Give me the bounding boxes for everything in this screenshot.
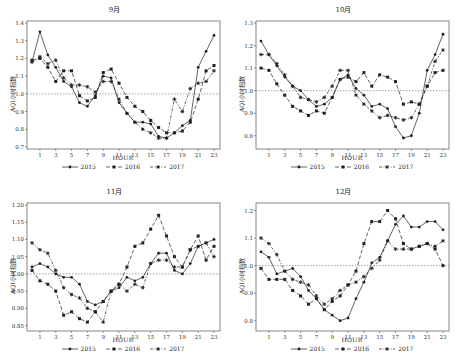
legend-item-2016: 2016 <box>335 163 369 170</box>
star-marker-icon <box>378 116 382 120</box>
dot-marker-icon <box>86 300 89 303</box>
star-marker-icon <box>394 247 398 251</box>
series-2017 <box>259 236 445 306</box>
legend-item-2017: 2017 <box>150 345 184 352</box>
square-marker-icon <box>378 73 381 76</box>
star-marker-icon <box>402 118 406 122</box>
legend: 201520162017 <box>229 163 458 170</box>
x-axis-label: HOUR <box>229 336 458 343</box>
star-marker-icon <box>70 83 74 87</box>
square-marker-icon <box>347 76 350 79</box>
square-marker-icon <box>112 165 115 168</box>
star-marker-icon <box>346 69 350 73</box>
star-marker-icon <box>410 247 414 251</box>
square-marker-icon <box>362 242 365 245</box>
dot-marker-icon <box>70 276 73 279</box>
dot-marker-icon <box>378 103 381 106</box>
square-marker-icon <box>275 82 278 85</box>
y-tick-label: 0.85 <box>12 323 25 329</box>
dot-marker-icon <box>362 94 365 97</box>
star-marker-icon <box>307 98 311 102</box>
star-marker-icon <box>204 241 208 245</box>
star-marker-icon <box>30 60 34 64</box>
square-marker-icon <box>260 67 263 70</box>
dot-marker-icon <box>418 112 421 115</box>
square-marker-icon <box>189 121 192 124</box>
square-marker-icon <box>165 235 168 238</box>
square-marker-icon <box>370 220 373 223</box>
dot-marker-icon <box>355 297 358 300</box>
dot-marker-icon <box>31 266 34 269</box>
dot-marker-icon <box>410 134 413 137</box>
star-marker-icon <box>283 73 287 77</box>
dot-marker-icon <box>297 347 300 350</box>
y-tick-label: 0.90 <box>12 305 25 311</box>
star-marker-icon <box>338 69 342 73</box>
legend-label: 2015 <box>310 345 325 352</box>
square-marker-icon <box>307 114 310 117</box>
square-marker-icon <box>125 266 128 269</box>
star-marker-icon <box>54 269 58 273</box>
series-2015 <box>31 238 216 306</box>
dot-marker-icon <box>78 101 81 104</box>
star-marker-icon <box>109 80 113 84</box>
star-marker-icon <box>212 255 216 259</box>
star-marker-icon <box>133 282 137 286</box>
dot-marker-icon <box>133 279 136 282</box>
dot-marker-icon <box>260 250 263 253</box>
star-marker-icon <box>362 102 366 106</box>
star-marker-icon <box>291 278 295 282</box>
star-marker-icon <box>291 84 295 88</box>
star-marker-icon <box>330 84 334 88</box>
dot-marker-icon <box>102 75 105 78</box>
series-2016 <box>31 214 216 324</box>
star-marker-icon <box>323 302 327 306</box>
square-marker-icon <box>315 109 318 112</box>
dot-marker-icon <box>394 223 397 226</box>
plot-area <box>256 203 449 331</box>
star-marker-icon <box>70 293 74 297</box>
square-marker-icon <box>402 103 405 106</box>
square-marker-icon <box>112 347 115 350</box>
dot-marker-icon <box>78 283 81 286</box>
star-marker-icon <box>30 241 34 245</box>
series-2015 <box>260 215 445 323</box>
square-marker-icon <box>173 131 176 134</box>
legend: 201520162017 <box>229 345 458 352</box>
dot-marker-icon <box>291 267 294 270</box>
chart-panel-october: 0.80.91.01.11.21.31357911131517192123 10… <box>229 0 458 182</box>
dot-marker-icon <box>260 40 263 43</box>
square-marker-icon <box>62 69 65 72</box>
square-marker-icon <box>78 317 81 320</box>
y-axis-label: AQI小时指数 <box>237 76 246 112</box>
dot-marker-icon <box>355 87 358 90</box>
star-marker-icon <box>149 262 153 266</box>
square-marker-icon <box>370 85 373 88</box>
dot-marker-icon <box>62 276 65 279</box>
star-marker-icon <box>433 60 437 64</box>
dot-marker-icon <box>165 252 168 255</box>
square-marker-icon <box>38 279 41 282</box>
square-marker-icon <box>341 347 344 350</box>
square-marker-icon <box>331 96 334 99</box>
square-marker-icon <box>197 98 200 101</box>
square-marker-icon <box>86 99 89 102</box>
square-marker-icon <box>110 68 113 71</box>
star-marker-icon <box>156 347 160 351</box>
dot-marker-icon <box>442 228 445 231</box>
star-marker-icon <box>299 96 303 100</box>
star-marker-icon <box>315 100 319 104</box>
x-axis-label: HOUR <box>0 336 246 343</box>
square-marker-icon <box>378 220 381 223</box>
dot-marker-icon <box>86 105 89 108</box>
square-marker-icon <box>31 269 34 272</box>
star-marker-icon <box>346 283 350 287</box>
dot-marker-icon <box>307 289 310 292</box>
dot-marker-icon <box>418 226 421 229</box>
chart-title: 10月 <box>229 4 458 14</box>
plot-area <box>27 21 220 149</box>
square-marker-icon <box>181 130 184 133</box>
dot-marker-icon <box>426 69 429 72</box>
y-tick-label: 1.3 <box>244 20 253 26</box>
square-marker-icon <box>141 110 144 113</box>
